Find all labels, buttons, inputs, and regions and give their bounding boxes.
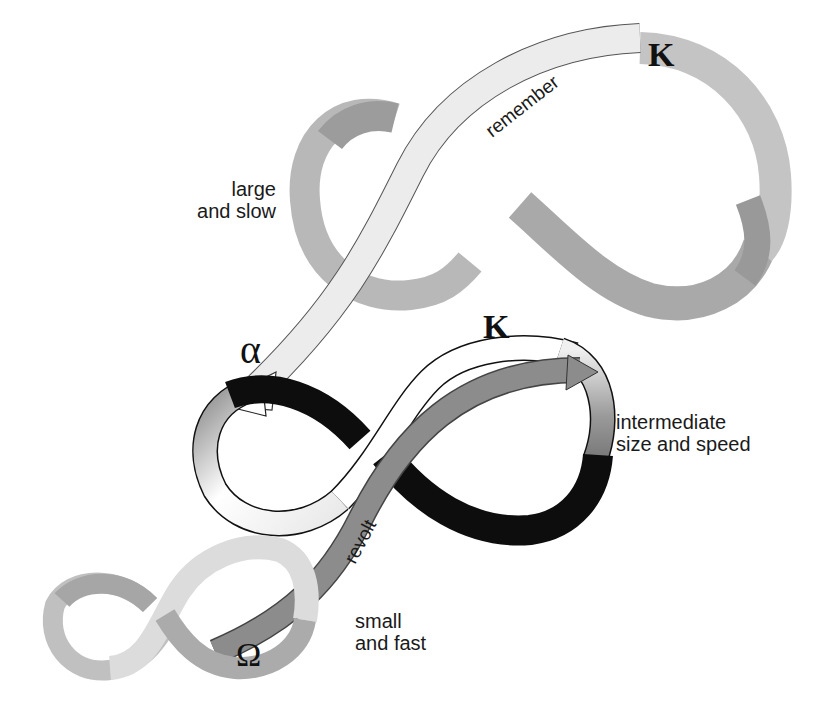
k-symbol-large-loop: K — [648, 38, 674, 72]
intermediate-size-and-speed-label: intermediate size and speed — [616, 411, 751, 455]
alpha-symbol: α — [240, 330, 261, 370]
large-and-slow-label: large and slow — [196, 178, 276, 222]
intermediate-loop-dark-band-right — [385, 455, 598, 530]
intermediate-loop-dark-band-left — [230, 389, 360, 440]
large-loop-lower-band — [520, 205, 760, 303]
small-and-fast-label: small and fast — [355, 610, 426, 654]
omega-symbol: Ω — [236, 638, 261, 672]
k-symbol-intermediate-loop: K — [483, 310, 509, 344]
